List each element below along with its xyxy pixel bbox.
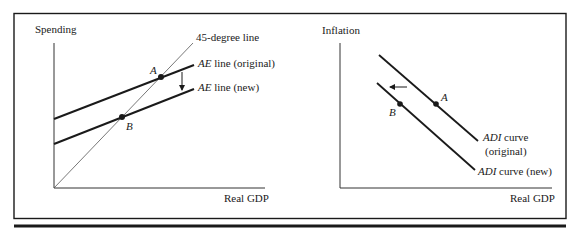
figure-canvas: Spending Real GDP 45-degree line AE line…: [0, 0, 578, 232]
point-a-marker: [433, 101, 439, 107]
point-a-label: A: [440, 91, 448, 103]
y-axis-label: Spending: [35, 23, 77, 35]
point-b-label: B: [389, 106, 396, 118]
point-b-marker: [397, 101, 403, 107]
ae-line-original-label: AE line (original): [197, 57, 275, 70]
adi-curve-original-label-line2: (original): [485, 145, 527, 158]
point-a-label: A: [149, 64, 157, 76]
line-45-degree-label: 45-degree line: [196, 31, 259, 43]
adi-curve-new-label: ADI curve (new): [477, 165, 552, 178]
y-axis-label: Inflation: [322, 24, 360, 36]
adi-diagram: Inflation Real GDP ADI curve (original) …: [322, 24, 555, 204]
ae-line-new-label: AE line (new): [197, 81, 259, 94]
adi-curve-original-label: ADI curve: [482, 131, 529, 143]
point-a-marker: [158, 74, 164, 80]
ae-diagram: Spending Real GDP 45-degree line AE line…: [35, 23, 275, 204]
x-axis-label: Real GDP: [510, 192, 555, 204]
x-axis-label: Real GDP: [224, 192, 269, 204]
point-b-marker: [119, 114, 125, 120]
ae-line-original: [54, 65, 194, 119]
point-b-label: B: [126, 120, 133, 132]
